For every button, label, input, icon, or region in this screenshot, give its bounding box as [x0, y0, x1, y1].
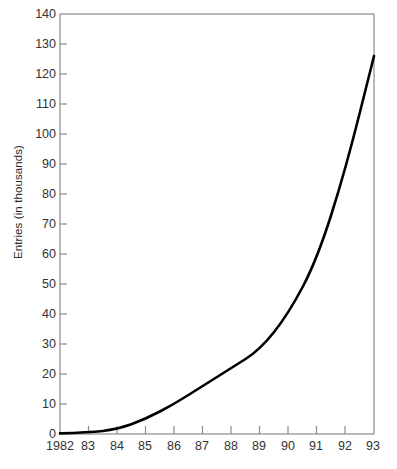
- chart-figure: Entries (in thousands) 140 130 120 110 1…: [0, 0, 397, 469]
- x-axis-tick-labels: 1982 83 84 85 86 87 88 89 90 91 92 93: [0, 0, 397, 469]
- x-tick-label: 93: [350, 440, 396, 453]
